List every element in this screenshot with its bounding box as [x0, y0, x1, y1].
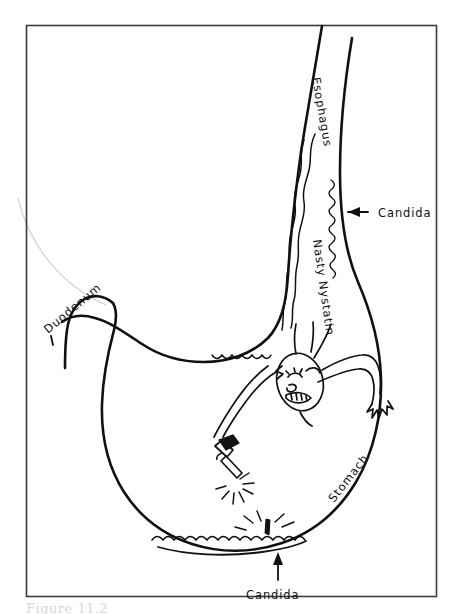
arrow-left-icon [348, 207, 368, 217]
character-eye-right [306, 368, 320, 373]
impact-burst-lower [235, 511, 294, 530]
candida-colonies-esophagus [329, 180, 336, 278]
arrow-lower-head [273, 552, 283, 565]
gun-barrel [221, 456, 242, 478]
impact-shard-lower [265, 519, 270, 535]
character-leg-right [311, 322, 313, 352]
character-arm-right-back [318, 369, 374, 404]
candida-colonies-upper-stomach [212, 355, 271, 359]
figure-drawing: Esophagus Candida Nasty Nystatin Duodenu… [0, 0, 459, 614]
character-arm-left-back [214, 366, 268, 437]
label-duodenum: Duodenum [41, 280, 104, 336]
nystatin-stream-fold [291, 134, 315, 328]
spray-gun-icon [215, 435, 254, 504]
label-candida-upper: Candida [378, 206, 432, 220]
arrow-up-icon [273, 552, 283, 580]
figure-frame [27, 26, 437, 597]
spray-burst-lines [216, 473, 254, 504]
arrow-upper-head [348, 207, 360, 217]
character-leg-left [295, 324, 297, 354]
character-nose [287, 384, 296, 391]
figure-caption: Figure 11.2 [26, 601, 108, 614]
label-stomach: Stomach [325, 451, 371, 505]
gun-grip [219, 435, 239, 450]
figure-container: Esophagus Candida Nasty Nystatin Duodenu… [0, 0, 459, 614]
nystatin-character-icon [214, 322, 393, 437]
label-candida-lower: Candida [246, 588, 300, 602]
character-head [271, 348, 330, 415]
gun-trigger [217, 453, 222, 460]
duodenum-tick-mark [51, 336, 53, 345]
character-arm-right [322, 355, 381, 394]
